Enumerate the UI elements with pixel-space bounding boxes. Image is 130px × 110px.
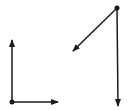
left-axes-group [10, 40, 59, 105]
vertical-down-arrow-icon [117, 8, 118, 106]
vector-diagram [0, 0, 130, 110]
right-vectors-origin-dot-icon [115, 6, 120, 11]
left-axes-origin-dot-icon [10, 100, 15, 105]
right-vectors-group [73, 6, 120, 107]
diagonal-down-left-arrow-icon [73, 8, 117, 51]
